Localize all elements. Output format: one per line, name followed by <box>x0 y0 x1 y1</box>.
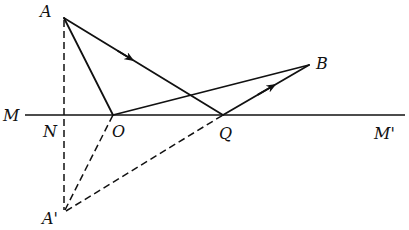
arrow-a-q-icon <box>118 51 130 58</box>
reflection-diagram: A B M N O Q M' A' <box>0 0 409 230</box>
label-q: Q <box>219 124 232 143</box>
label-a: A <box>38 2 52 21</box>
dashed-segment-a-prime-o <box>65 115 113 210</box>
label-n: N <box>42 122 58 141</box>
label-m-prime: M' <box>373 124 395 143</box>
label-m: M <box>2 106 20 125</box>
label-o: O <box>112 122 125 141</box>
label-a-prime: A' <box>40 209 58 228</box>
label-b: B <box>315 54 328 73</box>
dashed-segment-a-prime-q <box>66 115 223 211</box>
arrow-q-b-icon <box>258 87 272 95</box>
